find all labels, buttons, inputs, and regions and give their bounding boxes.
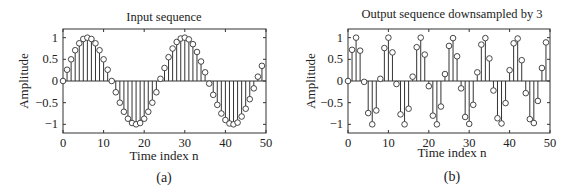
stem-marker	[466, 121, 472, 127]
stem-marker	[543, 40, 549, 46]
stem-marker	[491, 88, 497, 94]
stem-marker	[243, 106, 249, 112]
stem-marker	[190, 41, 196, 47]
stem-marker	[487, 56, 493, 62]
stem-marker	[251, 86, 257, 92]
stem-marker	[438, 104, 444, 110]
stem-marker	[398, 112, 404, 118]
stem-marker	[458, 86, 464, 92]
stem-marker	[462, 114, 468, 120]
stem-marker	[105, 67, 111, 73]
x-tick-label: 30	[179, 136, 192, 150]
stem-marker	[483, 35, 489, 41]
stem-marker	[378, 76, 384, 82]
stem-marker	[382, 45, 388, 51]
x-tick-label: 40	[219, 136, 232, 150]
panel-a-input-sequence: Input sequence Amplitude Time index n (a…	[0, 0, 288, 189]
stem-chart-input: Input sequence Amplitude Time index n (a…	[0, 0, 288, 189]
stem-marker	[406, 106, 412, 112]
x-tick-label: 20	[423, 136, 436, 150]
stem-marker	[430, 113, 436, 119]
stem-marker	[186, 37, 192, 43]
stem-marker	[113, 89, 119, 95]
plot-area: 01020304050−1−0.500.51	[35, 29, 272, 150]
stem-marker	[442, 71, 448, 77]
x-tick-label: 0	[60, 136, 66, 150]
stem-marker	[470, 102, 476, 108]
panel-caption: (a)	[156, 170, 172, 186]
stem-marker	[219, 111, 225, 117]
panel-caption: (b)	[444, 169, 461, 185]
x-tick-label: 0	[345, 136, 351, 150]
y-tick-label: −1	[330, 117, 343, 131]
stem-marker	[158, 76, 164, 82]
stem-marker	[166, 54, 172, 60]
y-tick-label: −1	[45, 117, 58, 131]
stem-marker	[60, 78, 66, 84]
stem-marker	[117, 100, 123, 106]
stem-marker	[402, 122, 408, 128]
stem-marker	[410, 74, 416, 80]
chart-title: Input sequence	[126, 10, 202, 24]
stem-chart-output: Output sequence downsampled by 3 Amplitu…	[287, 0, 577, 189]
y-tick-label: 1	[52, 31, 58, 45]
y-tick-label: 0.5	[42, 52, 58, 66]
stem-marker	[422, 52, 428, 58]
stem-marker	[121, 109, 127, 115]
stem-marker	[97, 47, 103, 53]
stem-marker	[474, 70, 480, 76]
stem-marker	[255, 74, 261, 80]
x-tick-label: 30	[463, 136, 476, 150]
stem-marker	[259, 63, 265, 69]
x-tick-label: 50	[260, 136, 273, 150]
x-tick-label: 50	[544, 136, 557, 150]
stem-marker	[101, 57, 107, 63]
stem-marker	[454, 54, 460, 60]
y-tick-label: 0.5	[327, 52, 343, 66]
stem-marker	[141, 116, 147, 122]
stem-marker	[499, 121, 505, 127]
stem-marker	[450, 35, 456, 41]
stem-marker	[511, 41, 517, 47]
chart-title: Output sequence downsampled by 3	[361, 7, 542, 21]
stem-marker	[365, 110, 371, 116]
stem-marker	[64, 67, 70, 73]
stem-marker	[369, 122, 375, 128]
stem-marker	[503, 100, 509, 106]
stem-marker	[357, 48, 363, 54]
stem-marker	[206, 81, 212, 87]
stem-marker	[235, 120, 241, 126]
x-tick-label: 10	[97, 136, 110, 150]
stem-marker	[202, 70, 208, 76]
stem-marker	[386, 35, 392, 41]
stem-marker	[535, 98, 541, 104]
stem-marker	[239, 114, 245, 120]
stem-marker	[150, 100, 156, 106]
stem-marker	[247, 96, 253, 102]
y-tick-label: −0.5	[320, 96, 343, 110]
stem-marker	[495, 115, 501, 121]
stem-marker	[170, 46, 176, 52]
stem-marker	[418, 35, 424, 41]
stem-marker	[361, 79, 367, 85]
stem-marker	[349, 47, 355, 53]
stem-marker	[479, 42, 485, 48]
y-tick-label: 0	[337, 74, 343, 88]
stem-marker	[515, 36, 521, 42]
x-axis-label: Time index n	[130, 148, 199, 163]
y-tick-label: 0	[52, 74, 58, 88]
stem-marker	[154, 89, 160, 95]
stem-marker	[210, 92, 216, 98]
y-axis-label: Amplitude	[16, 53, 31, 109]
stem-marker	[507, 67, 513, 73]
x-tick-label: 10	[382, 136, 395, 150]
panel-b-output-sequence: Output sequence downsampled by 3 Amplitu…	[287, 0, 575, 189]
stem-marker	[109, 78, 115, 84]
x-tick-label: 20	[138, 136, 151, 150]
stem-marker	[345, 78, 351, 84]
stem-marker	[523, 90, 529, 96]
stem-marker	[214, 102, 220, 108]
stem-marker	[539, 65, 545, 71]
stem-marker	[519, 57, 525, 63]
stem-marker	[434, 122, 440, 128]
